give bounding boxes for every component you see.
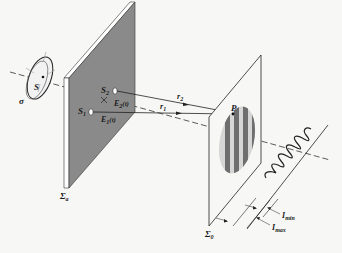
- source-region-label: σ: [19, 96, 25, 106]
- observation-screen-label: Σ0: [204, 229, 214, 240]
- point-p-label: P: [231, 103, 237, 113]
- aperture-screen: [64, 2, 135, 188]
- path-r2-label: r2: [177, 92, 183, 102]
- path-r1-label: r1: [160, 102, 166, 112]
- slit-2: [113, 88, 117, 94]
- source-label: S: [34, 82, 39, 92]
- point-p: [232, 113, 235, 116]
- i-min-label: Imin: [281, 211, 295, 221]
- slit-1: [89, 109, 93, 115]
- intensity-curve: [265, 128, 311, 178]
- aperture-screen-label: Σa: [59, 191, 69, 202]
- optical-axis: [10, 72, 330, 160]
- double-slit-diagram: S σ Σa S2 S1 E2(t) E1(t) r2 r1: [0, 0, 342, 253]
- source-region: [22, 52, 58, 102]
- i-max-label: Imax: [271, 223, 286, 233]
